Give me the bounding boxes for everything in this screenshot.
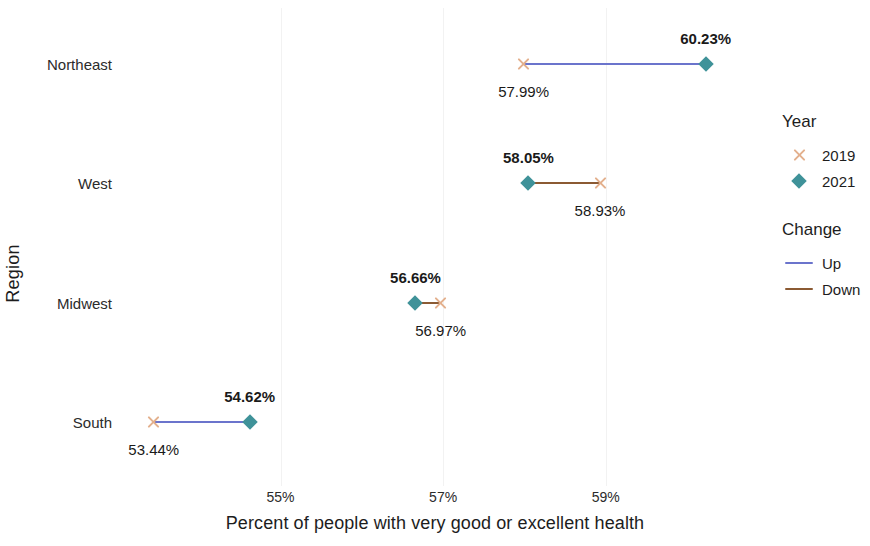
x-tick-label: 57%: [429, 489, 457, 505]
diamond-marker-icon: [521, 175, 537, 191]
line-swatch-icon: [782, 252, 816, 274]
legend-label: Up: [816, 255, 841, 272]
legend-group-change: Change UpDown: [782, 220, 870, 302]
connector-line-west: [528, 182, 600, 184]
line-swatch-icon: [782, 278, 816, 300]
diamond-marker-icon: [242, 414, 258, 430]
diamond-marker-icon: [782, 170, 816, 192]
legend: Year 20192021 Change UpDown: [782, 112, 870, 328]
diamond-marker-icon: [698, 56, 714, 72]
data-label-2019-midwest: 56.97%: [415, 321, 466, 338]
diamond-marker-icon: [408, 295, 424, 311]
x-axis-tick-labels: 55%57%59%: [118, 489, 752, 509]
legend-label: Down: [816, 281, 860, 298]
gridline: [606, 8, 607, 486]
data-label-2021-northeast: 60.23%: [680, 29, 731, 46]
y-axis-tick-labels: NortheastWestMidwestSouth: [0, 8, 112, 486]
legend-item-2021[interactable]: 2021: [782, 168, 870, 194]
x-tick-label: 59%: [592, 489, 620, 505]
gridline: [281, 8, 282, 486]
legend-item-up[interactable]: Up: [782, 250, 870, 276]
legend-label: 2019: [816, 147, 855, 164]
legend-item-2019[interactable]: 2019: [782, 142, 870, 168]
x-marker-icon: [593, 176, 608, 191]
y-tick-label-northeast: Northeast: [2, 55, 112, 72]
x-marker-icon: [146, 415, 161, 430]
x-tick-label: 55%: [267, 489, 295, 505]
data-label-2021-west: 58.05%: [503, 149, 554, 166]
data-label-2019-northeast: 57.99%: [498, 82, 549, 99]
data-label-2019-south: 53.44%: [128, 441, 179, 458]
y-tick-label-midwest: Midwest: [2, 294, 112, 311]
data-label-2019-west: 58.93%: [575, 202, 626, 219]
connector-line-south: [154, 421, 250, 423]
x-axis-title: Percent of people with very good or exce…: [130, 513, 740, 534]
x-marker-icon: [782, 144, 816, 166]
x-marker-icon: [433, 295, 448, 310]
chart-root: Region NortheastWestMidwestSouth 60.23%5…: [0, 0, 870, 546]
y-tick-label-west: West: [2, 175, 112, 192]
x-axis-title-text: Percent of people with very good or exce…: [226, 513, 644, 533]
legend-title-year: Year: [782, 112, 870, 132]
legend-group-year: Year 20192021: [782, 112, 870, 194]
data-label-2021-south: 54.62%: [224, 388, 275, 405]
legend-title-change: Change: [782, 220, 870, 240]
y-tick-label-south: South: [2, 414, 112, 431]
legend-label: 2021: [816, 173, 855, 190]
plot-area: 60.23%57.99%58.05%58.93%56.66%56.97%54.6…: [118, 8, 752, 486]
x-marker-icon: [516, 56, 531, 71]
gridline: [443, 8, 444, 486]
connector-line-northeast: [524, 63, 706, 65]
legend-item-down[interactable]: Down: [782, 276, 870, 302]
data-label-2021-midwest: 56.66%: [390, 268, 441, 285]
